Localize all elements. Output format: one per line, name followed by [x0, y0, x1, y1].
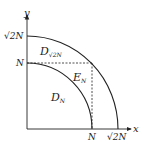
region-label-D-sqrt2N: D√2N: [39, 45, 62, 58]
x-axis-label: x: [133, 123, 139, 134]
region-label-D-N: DN: [50, 91, 66, 104]
x-tick-sqrt2N: √2N: [107, 132, 127, 142]
x-tick-N: N: [87, 132, 97, 142]
region-label-E-N: EN: [72, 71, 87, 84]
y-tick-sqrt2N: √2N: [4, 31, 24, 41]
diagram-canvas: y x √2N N N √2N D√2N EN DN: [0, 0, 148, 146]
y-tick-N: N: [15, 58, 25, 68]
y-axis-label: y: [23, 7, 30, 18]
